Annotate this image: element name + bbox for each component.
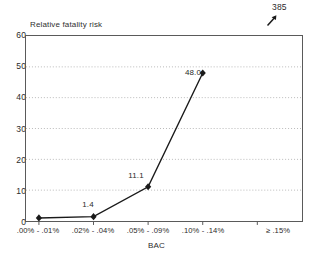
x-tick-label-2: .05% - .09% <box>127 226 169 235</box>
y-tick-label-30: 30 <box>6 124 26 134</box>
x-axis-ticks <box>26 36 302 221</box>
y-axis-title: Relative fatality risk <box>30 20 102 29</box>
x-tick-label-4: ≥ .15% <box>266 226 290 235</box>
x-axis-title: BAC <box>0 241 313 250</box>
y-tick-label-20: 20 <box>6 155 26 165</box>
up-right-arrow-icon <box>265 13 279 27</box>
chart-figure: 385 Relative fatality risk 0 10 20 30 40… <box>0 0 313 260</box>
x-tick-label-1: .02% - .04% <box>72 226 114 235</box>
x-tick-label-0: .00% - .01% <box>17 226 59 235</box>
point-label-3: 48.0 <box>185 68 201 77</box>
y-tick-label-60: 60 <box>6 30 26 40</box>
y-tick-label-10: 10 <box>6 186 26 196</box>
x-tick-label-3: .10% - .14% <box>182 226 224 235</box>
point-label-2: 11.1 <box>128 171 143 180</box>
y-tick-label-50: 50 <box>6 61 26 71</box>
point-label-1: 1.4 <box>82 200 93 209</box>
offscale-annotation: 385 <box>258 2 310 34</box>
y-tick-label-40: 40 <box>6 92 26 102</box>
plot-area <box>25 35 303 222</box>
offscale-value-label: 385 <box>272 2 287 12</box>
